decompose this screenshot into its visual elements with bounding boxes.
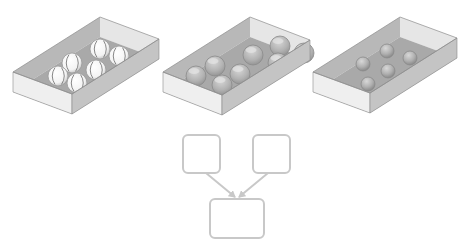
glass-sphere-icon <box>243 45 263 65</box>
gray-sphere-icon <box>403 51 417 65</box>
glass-spheres-tray <box>163 17 314 115</box>
gray-sphere-icon <box>380 44 394 58</box>
gray-sphere-icon <box>361 77 375 91</box>
baseballs-tray <box>13 17 159 114</box>
diagram-svg <box>0 0 466 249</box>
baseball-icon <box>48 66 68 86</box>
target-box <box>210 199 264 238</box>
gray-sphere-icon <box>356 57 370 71</box>
diagram-canvas <box>0 0 466 249</box>
arrow-right-to-target <box>239 173 268 197</box>
trays-group <box>13 17 457 115</box>
source-box-right <box>253 135 290 173</box>
arrow-left-to-target <box>206 173 235 197</box>
gray-sphere-icon <box>381 64 395 78</box>
small-spheres-tray <box>313 17 457 113</box>
source-box-left <box>183 135 220 173</box>
baseball-icon <box>90 39 110 59</box>
glass-sphere-icon <box>205 56 225 76</box>
flowchart-group <box>183 135 290 238</box>
